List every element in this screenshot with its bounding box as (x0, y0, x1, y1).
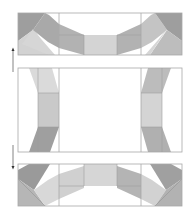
down-arrow-icon (12, 145, 15, 170)
up-arrow-icon (12, 48, 15, 73)
quilt-assembly-diagram (0, 0, 194, 220)
middle-row-panel (18, 68, 182, 152)
top-center-block (84, 35, 117, 55)
middle-left-bottom-strip (29, 127, 59, 152)
middle-right-center-block (141, 93, 162, 127)
bottom-center-block (84, 164, 117, 186)
middle-right-bottom-strip (141, 127, 171, 152)
top-left-arc-inner (59, 24, 84, 55)
middle-left-center-block (38, 93, 59, 127)
bottom-left-arc-inner (59, 166, 84, 199)
top-right-arc-inner (117, 24, 141, 55)
top-row-panel (18, 13, 182, 55)
middle-right-top-strip (141, 68, 171, 93)
middle-left-top-strip (29, 68, 59, 93)
bottom-row-panel (18, 164, 182, 206)
bottom-right-arc-inner (117, 166, 141, 199)
